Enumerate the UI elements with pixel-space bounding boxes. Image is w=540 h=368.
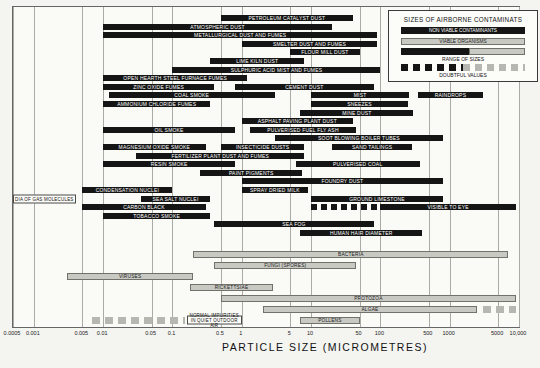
legend: SIZES OF AIRBORNE CONTAMINATS NON VIABLE… <box>388 10 538 82</box>
doubtful-range-bar <box>483 306 516 313</box>
legend-doubtful-caption: DOUBTFUL VALUES <box>389 72 537 78</box>
legend-range-sample-gray <box>469 48 525 55</box>
range-bar: OIL SMOKE <box>103 127 235 133</box>
range-bar: SMELTER DUST AND FUMES <box>242 41 377 47</box>
chart-row: ASPHALT PAVING PLANT DUST <box>13 118 519 124</box>
chart-row: HUMAN HAIR DIAMETER <box>13 230 519 236</box>
label-box: NORMAL IMPURITIES IN QUIET OUTDOOR AIR <box>187 316 242 325</box>
range-bar: CARBON BLACK <box>82 204 205 210</box>
range-bar: SULPHURIC ACID MIST AND FUMES <box>172 67 380 73</box>
axis-tick-label: 0.0005 <box>4 330 21 336</box>
axis-tick-label: 1000 <box>443 330 455 336</box>
axis-tick-label: 100 <box>375 330 384 336</box>
range-bar: FUNGI (SPORES) <box>214 262 356 269</box>
chart-row: NORMAL IMPURITIES IN QUIET OUTDOOR AIRPO… <box>13 317 519 323</box>
legend-range-caption: RANGE OF SIZES <box>389 56 537 62</box>
axis-tick-label: 5 <box>288 330 291 336</box>
range-bar: PROTOZOA <box>221 295 516 302</box>
range-bar: VISIBLE TO EYE <box>380 204 515 210</box>
range-bar: BACTERIA <box>193 251 508 258</box>
chart-row: RICKETTSIAE <box>13 284 519 290</box>
range-bar: PULVERISED COAL <box>296 161 420 167</box>
range-bar: MINE DUST <box>300 110 413 116</box>
range-bar: FLOUR MILL DUST <box>290 49 359 55</box>
range-bar: PULVERISED FUEL FLY ASH <box>250 127 357 133</box>
chart-row: FUNGI (SPORES) <box>13 262 519 268</box>
chart-row: COAL SMOKEMISTRAINDROPS <box>13 92 519 98</box>
chart-row: DIA OF GAS MOLECULESSEA SALT NUCLEIGROUN… <box>13 196 519 202</box>
chart-row: MINE DUST <box>13 110 519 116</box>
range-bar: METALLURGICAL DUST AND FUMES <box>103 32 377 38</box>
range-bar: ZINC OXIDE FUMES <box>103 84 214 90</box>
range-bar: CEMENT DUST <box>235 84 374 90</box>
chart-row: FERTILIZER PLANT DUST AND FUMES <box>13 153 519 159</box>
chart-row: SOOT BLOWING BOILER TUBES <box>13 135 519 141</box>
axis-tick-label: 10 <box>307 330 313 336</box>
legend-viable-sample: VIABLE ORGANISMS <box>401 38 525 45</box>
range-bar: HUMAN HAIR DIAMETER <box>300 230 422 236</box>
x-axis-ticks: 0.00050.0010.0050.010.050.10.51510501005… <box>12 330 518 339</box>
chart-row: ZINC OXIDE FUMESCEMENT DUST <box>13 84 519 90</box>
chart-row: BACTERIA <box>13 251 519 257</box>
range-bar: SPRAY DRIED MILK <box>242 187 308 193</box>
range-bar: SEA SALT NUCLEI <box>141 196 210 202</box>
chart-row: ALGAE <box>13 306 519 312</box>
range-bar: PAINT PIGMENTS <box>200 170 302 176</box>
range-bar: ALGAE <box>263 306 478 313</box>
range-bar: POLLENS <box>300 317 359 324</box>
range-bar: RAINDROPS <box>418 92 483 98</box>
range-bar: INSECTICIDE DUSTS <box>221 144 304 150</box>
range-bar: RICKETTSIAE <box>190 284 273 291</box>
range-bar: OPEN HEARTH STEEL FURNACE FUMES <box>103 75 247 81</box>
doubtful-range-bar <box>92 317 184 324</box>
axis-tick-label: 0.01 <box>97 330 108 336</box>
axis-tick-label: 0.005 <box>74 330 88 336</box>
axis-tick-label: 50 <box>355 330 361 336</box>
range-bar: SNEEZES <box>311 101 408 107</box>
chart-row: RESIN SMOKEPULVERISED COAL <box>13 161 519 167</box>
axis-tick-label: 0.001 <box>26 330 40 336</box>
axis-tick-label: 500 <box>423 330 432 336</box>
chart-row: CARBON BLACKVISIBLE TO EYE <box>13 204 519 210</box>
range-bar: PETROLEUM CATALYST DUST <box>221 15 353 21</box>
range-bar: COAL SMOKE <box>109 92 275 98</box>
chart-row: CONDENSATION NUCLEISPRAY DRIED MILK <box>13 187 519 193</box>
range-bar: CONDENSATION NUCLEI <box>82 187 172 193</box>
range-bar: TOBACCO SMOKE <box>103 213 210 219</box>
axis-tick-label: 0.05 <box>145 330 156 336</box>
range-bar: SEA FOG <box>214 221 373 227</box>
range-bar: MIST <box>311 92 409 98</box>
axis-tick-label: 0.1 <box>168 330 176 336</box>
range-bar: ATMOSPHERIC DUST <box>103 24 332 30</box>
chart-row: VIRUSES <box>13 273 519 279</box>
doubtful-range-bar <box>311 204 377 210</box>
legend-range-sample <box>401 48 525 55</box>
range-bar: AMMONIUM CHLORIDE FUMES <box>103 101 210 107</box>
axis-tick-label: 5000 <box>491 330 503 336</box>
range-bar: LIME KILN DUST <box>210 58 304 64</box>
axis-tick-label: 1 <box>239 330 242 336</box>
legend-nonviable-sample: NON VIABLE CONTAMINANTS <box>401 27 525 34</box>
range-bar: VIRUSES <box>67 273 193 280</box>
chart-row: TOBACCO SMOKE <box>13 213 519 219</box>
legend-title: SIZES OF AIRBORNE CONTAMINATS <box>389 16 537 23</box>
chart-row: SEA FOG <box>13 221 519 227</box>
legend-doubtful-sample <box>401 64 525 71</box>
range-bar: ASPHALT PAVING PLANT DUST <box>242 118 353 124</box>
range-bar: GROUND LIMESTONE <box>311 196 443 202</box>
range-bar: SOOT BLOWING BOILER TUBES <box>275 135 443 141</box>
range-bar: FERTILIZER PLANT DUST AND FUMES <box>136 153 304 159</box>
range-bar: MAGNESIUM OXIDE SMOKE <box>103 144 205 150</box>
legend-range-sample-black <box>401 48 469 55</box>
axis-tick-label: 10,000 <box>510 330 527 336</box>
range-bar: FOUNDRY DUST <box>242 178 443 184</box>
label-box: DIA OF GAS MOLECULES <box>13 194 76 203</box>
legend-doubtful-sample-black <box>401 64 463 71</box>
chart-row: AMMONIUM CHLORIDE FUMESSNEEZES <box>13 101 519 107</box>
range-bar: SAND TAILINGS <box>332 144 412 150</box>
legend-doubtful-sample-gray <box>463 64 525 71</box>
x-axis-title: PARTICLE SIZE (MICROMETRES) <box>110 341 540 353</box>
chart-row: MAGNESIUM OXIDE SMOKEINSECTICIDE DUSTSSA… <box>13 144 519 150</box>
chart-row: PAINT PIGMENTS <box>13 170 519 176</box>
chart-row: OIL SMOKEPULVERISED FUEL FLY ASH <box>13 127 519 133</box>
